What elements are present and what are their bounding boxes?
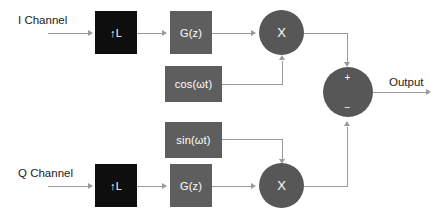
filter-block-q: G(z) — [170, 164, 212, 207]
wire-i-to-summer-vert — [347, 33, 348, 62]
output-label: Output — [389, 76, 424, 88]
wire-q-to-summer-vert — [347, 127, 348, 186]
upsampler-block-i-label: ↑L — [110, 27, 122, 39]
wire-i-upsampler-to-filter — [137, 33, 163, 34]
wire-q-upsampler-to-filter — [137, 186, 163, 187]
arrow-i-input-icon — [88, 30, 93, 36]
carrier-block-cos: cos(ωt) — [165, 66, 222, 102]
upsampler-block-i: ↑L — [95, 11, 137, 54]
wire-cos-to-mixer-vert — [282, 61, 283, 84]
filter-block-i-label: G(z) — [180, 27, 202, 39]
wire-q-input — [48, 186, 89, 187]
arrow-i-mixer-in-icon — [251, 30, 256, 36]
carrier-block-sin: sin(ωt) — [165, 122, 222, 158]
wire-i-input — [48, 33, 89, 34]
mixer-node-i-label: X — [277, 26, 286, 39]
wire-q-mixer-out — [304, 186, 348, 187]
i-channel-label: I Channel — [18, 14, 67, 26]
arrow-summer-minus-in-icon — [344, 121, 350, 126]
carrier-block-sin-label: sin(ωt) — [176, 134, 210, 146]
summer-plus-sign: + — [345, 73, 351, 83]
arrow-i-mixer-carrier-in-icon — [279, 55, 285, 60]
wire-sin-out — [222, 139, 283, 140]
wire-output — [373, 92, 427, 93]
arrow-output-icon — [426, 89, 431, 95]
arrow-i-filter-in-icon — [162, 30, 167, 36]
wire-sin-to-mixer-vert — [282, 139, 283, 160]
upsampler-block-q-label: ↑L — [110, 180, 122, 192]
carrier-block-cos-label: cos(ωt) — [175, 78, 213, 90]
arrow-q-input-icon — [88, 183, 93, 189]
wire-i-mixer-out — [304, 33, 348, 34]
wire-q-filter-to-mixer — [212, 186, 252, 187]
wire-i-filter-to-mixer — [212, 33, 252, 34]
filter-block-i: G(z) — [170, 11, 212, 54]
filter-block-q-label: G(z) — [180, 180, 202, 192]
mixer-node-q-label: X — [277, 179, 286, 192]
q-channel-label: Q Channel — [18, 167, 73, 179]
summer-minus-sign: − — [345, 103, 351, 113]
upsampler-block-q: ↑L — [95, 164, 137, 207]
mixer-node-q: X — [259, 163, 304, 208]
arrow-q-filter-in-icon — [162, 183, 167, 189]
mixer-node-i: X — [259, 10, 304, 55]
wire-cos-out — [222, 84, 283, 85]
arrow-q-mixer-in-icon — [251, 183, 256, 189]
block-diagram-canvas: I Channel ↑L G(z) X cos(ωt) + − Output s… — [0, 0, 441, 218]
